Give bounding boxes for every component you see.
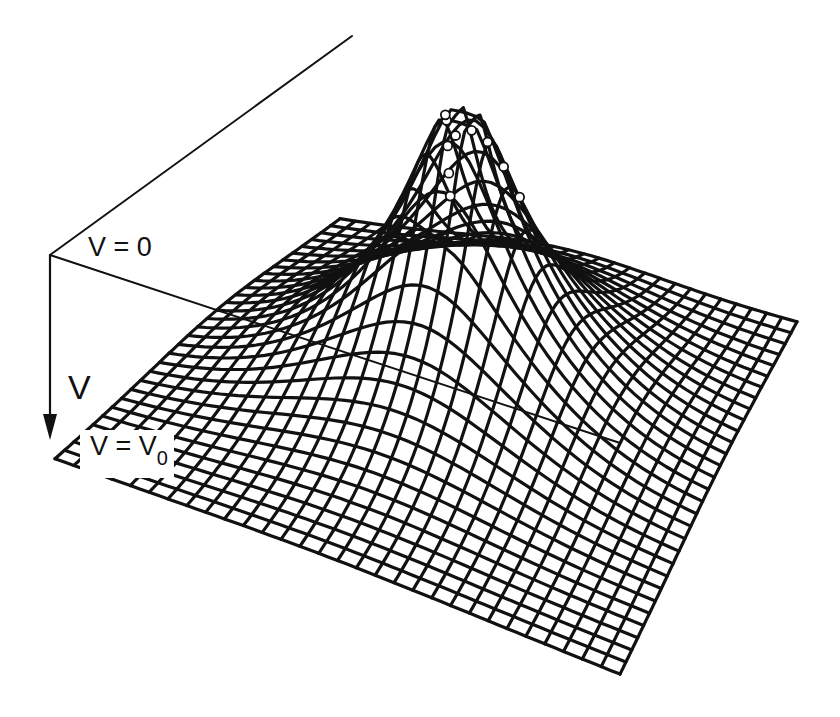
label-v-equals-text: V = V	[90, 431, 157, 461]
label-v-subscript: 0	[157, 447, 168, 469]
marker-circle-icon	[515, 193, 524, 202]
wireframe-mesh	[55, 108, 797, 675]
marker-circle-icon	[467, 126, 476, 135]
label-v-equals-v0: V = V0	[80, 430, 174, 478]
marker-circle-icon	[446, 192, 455, 201]
marker-circle-icon	[444, 169, 453, 178]
marker-circle-icon	[483, 138, 492, 147]
marker-circle-icon	[443, 141, 452, 150]
marker-circle-icon	[451, 131, 460, 140]
label-v-zero: V = 0	[88, 234, 152, 261]
potential-surface-figure	[0, 0, 840, 717]
marker-circle-icon	[441, 110, 450, 119]
marker-circle-icon	[499, 162, 508, 171]
label-v-axis: V	[68, 370, 91, 404]
arrow-down-icon	[43, 414, 57, 440]
